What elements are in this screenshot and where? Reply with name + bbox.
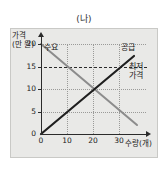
tick-label-x-10: 10 (60, 137, 74, 145)
price-floor-label-line2: 가격 (129, 71, 143, 80)
tick-mark-y-10 (38, 89, 41, 90)
figure-title: (나) (0, 12, 168, 25)
y-axis (41, 37, 42, 134)
tick-label-y-10: 10 (19, 85, 36, 93)
tick-mark-y-5 (38, 112, 41, 113)
supply-curve-label: 공급 (121, 43, 135, 52)
demand-curve (41, 44, 137, 125)
y-axis-label-line2: (만 원) (12, 40, 34, 49)
tick-label-x-0: 0 (34, 137, 48, 145)
x-axis (41, 134, 147, 135)
x-axis-arrow-icon (146, 131, 151, 137)
tick-label-x-30: 30 (112, 137, 126, 145)
price-floor-label: 최저 가격 (129, 62, 143, 80)
supply-curve (41, 56, 134, 134)
demand-curve-label: 수요 (44, 43, 58, 52)
tick-label-y-5: 5 (21, 108, 36, 116)
y-axis-arrow-icon (38, 32, 44, 37)
tick-label-y-15: 15 (19, 63, 36, 71)
tick-mark-y-20 (38, 44, 41, 45)
tick-label-x-20: 20 (86, 137, 100, 145)
y-axis-label: 가격 (만 원) (12, 31, 34, 49)
figure-root: (나) (0, 0, 168, 173)
tick-mark-y-15 (38, 67, 41, 68)
price-floor-label-line1: 최저 (129, 62, 143, 71)
y-axis-label-line1: 가격 (12, 31, 34, 40)
x-axis-label: 수량(개) (125, 137, 152, 148)
